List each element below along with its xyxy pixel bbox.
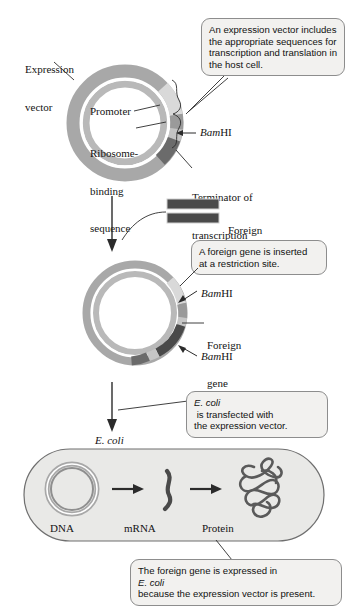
bamhi-label-bottom-rest: HI (221, 350, 233, 362)
promoter-leader-line (134, 103, 172, 119)
bamhi-label-bottom: BamHI (201, 350, 233, 363)
promoter-label: Promoter (90, 105, 131, 118)
foreign-gene-insert-curve (120, 208, 172, 244)
callout2-line1: A foreign gene is inserted (199, 246, 320, 258)
callout4-line1-a: The foreign gene is expressed in (138, 565, 335, 577)
ecoli-label: E. coli (95, 434, 124, 447)
foreign-gene-label-step3-line2: gene (207, 377, 241, 390)
dna-label: DNA (50, 522, 74, 535)
callout4-line2: because the expression vector is present… (138, 588, 335, 600)
foreign-gene-fragment (167, 199, 221, 227)
bamhi-label-step1-italic: Bam (200, 126, 220, 138)
recombinant-inner-ring (96, 274, 174, 352)
callout-foreign-gene-inserted: A foreign gene is inserted at a restrict… (191, 240, 327, 275)
callout2-line2: at a restriction site. (199, 258, 320, 270)
expression-vector-label-line2: vector (25, 101, 74, 114)
foreign-gene-label-step2-line1: Foreign (228, 224, 262, 237)
callout4-line1-italic: E. coli (138, 577, 164, 588)
callout3-leader-line (118, 398, 190, 414)
bamhi-label-top-rest: HI (221, 287, 233, 299)
callout1-line2: the appropriate sequences for (209, 36, 338, 48)
bamhi-bottom-arrow-icon (177, 344, 199, 360)
callout1-leader-line (186, 72, 242, 116)
callout3-line1-italic: E. coli (194, 397, 220, 408)
expression-vector-label: Expression vector (25, 38, 74, 138)
bamhi-label-top: BamHI (201, 287, 233, 300)
callout-expression-result: The foreign gene is expressed in E. coli… (130, 559, 342, 606)
process-arrow-1 (104, 196, 120, 254)
callout3-line1: E. coli is transfected with (194, 397, 321, 420)
callout1-line3: transcription and translation in (209, 47, 338, 59)
mrna-label: mRNA (124, 522, 156, 535)
callout3-line2: the expression vector. (194, 420, 321, 432)
callout-expression-vector: An expression vector includes the approp… (201, 18, 345, 76)
bamhi-site-bottom-segment (148, 353, 158, 357)
bamhi-label-step1: BamHI (200, 126, 232, 139)
bamhi-label-step1-rest: HI (220, 126, 232, 138)
callout1-line4: the host cell. (209, 59, 338, 71)
callout3-line1-rest: is transfected with (194, 409, 321, 421)
callout4-line1: The foreign gene is expressed in E. coli (138, 565, 335, 588)
recombinant-rbs-segment (182, 304, 183, 318)
foreign-gene-bar-top (167, 199, 219, 209)
foreign-gene-bar-bottom (167, 213, 219, 223)
callout1-line1: An expression vector includes (209, 24, 338, 36)
foreign-gene-leader-step3 (180, 318, 206, 328)
bamhi-label-bottom-italic: Bam (201, 350, 221, 362)
protein-label: Protein (202, 522, 234, 535)
bamhi-label-top-italic: Bam (201, 287, 221, 299)
rbs-label-line1: Ribosome- (90, 147, 138, 160)
figure-canvas: Expression vector Promoter Ribosome- bin… (0, 0, 351, 615)
recombinant-terminator-segment (132, 357, 149, 361)
callout-transfection: E. coli is transfected with the expressi… (186, 391, 328, 438)
expression-vector-leader-line (54, 62, 80, 84)
bamhi-top-arrow-icon (177, 289, 199, 305)
